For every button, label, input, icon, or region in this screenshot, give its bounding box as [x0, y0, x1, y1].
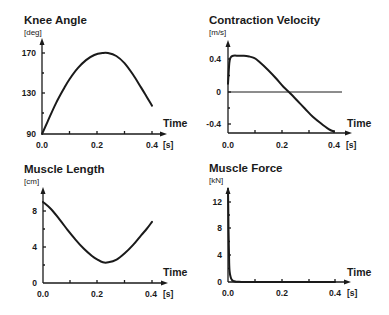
x-tick-label: 0.2 [91, 289, 103, 299]
ticks [43, 211, 152, 283]
x-tick-label: 0.2 [276, 288, 288, 298]
x-tick-label: 0.4 [329, 288, 341, 298]
x-tick-label: 0.0 [36, 140, 48, 150]
y-tick-label: 12 [213, 197, 223, 207]
y-tick-label: 170 [22, 48, 36, 58]
x-axis-label: Time [347, 117, 371, 129]
figure: Knee Angle [deg] 170 130 90 0.0 0.2 0.4 … [0, 0, 389, 315]
x-unit: [s] [163, 140, 174, 150]
x-tick-label: 0.4 [328, 140, 340, 150]
y-tick-label: 0 [32, 278, 37, 288]
x-axis-arrow-icon [345, 131, 352, 136]
x-unit: [s] [346, 140, 357, 150]
x-axis-label: Time [163, 266, 187, 278]
y-unit: [m/s] [209, 28, 226, 37]
panel-muscle-force: Muscle Force [kN] 12 8 4 0 0.0 0.2 0.4 [… [209, 162, 371, 298]
y-tick-label: 0 [217, 277, 222, 287]
y-unit: [cm] [24, 177, 39, 186]
muscle-length-curve [43, 202, 152, 263]
x-axis-arrow-icon [161, 281, 168, 286]
ticks [42, 53, 152, 134]
panel-title: Contraction Velocity [209, 14, 321, 26]
y-axis-arrow-icon [40, 38, 45, 45]
contraction-velocity-curve [228, 56, 334, 132]
panel-knee-angle: Knee Angle [deg] 170 130 90 0.0 0.2 0.4 … [22, 14, 188, 150]
y-tick-label: 8 [217, 223, 222, 233]
x-tick-label: 0.4 [145, 289, 157, 299]
x-axis-label: Time [347, 266, 371, 278]
y-tick-label: 90 [27, 129, 37, 139]
x-tick-label: 0.2 [91, 140, 103, 150]
x-tick-label: 0.0 [222, 288, 234, 298]
y-unit: [deg] [24, 28, 42, 37]
x-tick-label: 0.4 [146, 140, 158, 150]
panel-title: Muscle Force [209, 162, 283, 174]
x-axis-arrow-icon [344, 280, 351, 285]
x-axis-label: Time [163, 117, 187, 129]
muscle-force-curve [228, 189, 335, 282]
y-tick-label: -0.4 [206, 119, 221, 129]
x-tick-label: 0.0 [37, 289, 49, 299]
y-axis-arrow-icon [226, 40, 231, 47]
x-unit: [s] [163, 289, 174, 299]
x-tick-label: 0.0 [222, 140, 234, 150]
y-unit: [kN] [209, 176, 223, 185]
y-tick-label: 0.4 [209, 54, 221, 64]
y-axis-arrow-icon [41, 187, 46, 194]
y-tick-label: 4 [32, 242, 37, 252]
knee-angle-curve [42, 53, 152, 134]
panel-contraction-velocity: Contraction Velocity [m/s] 0.4 0 -0.4 0.… [206, 14, 371, 150]
x-tick-label: 0.2 [276, 140, 288, 150]
x-axis-arrow-icon [160, 132, 167, 137]
ticks [228, 202, 335, 282]
y-tick-label: 130 [22, 88, 36, 98]
panel-title: Knee Angle [24, 14, 87, 26]
panel-muscle-length: Muscle Length [cm] 8 4 0 0.0 0.2 0.4 [s]… [24, 163, 187, 299]
y-tick-label: 0 [216, 87, 221, 97]
y-tick-label: 4 [217, 250, 222, 260]
x-unit: [s] [347, 288, 358, 298]
panel-title: Muscle Length [24, 163, 105, 175]
y-tick-label: 8 [32, 206, 37, 216]
